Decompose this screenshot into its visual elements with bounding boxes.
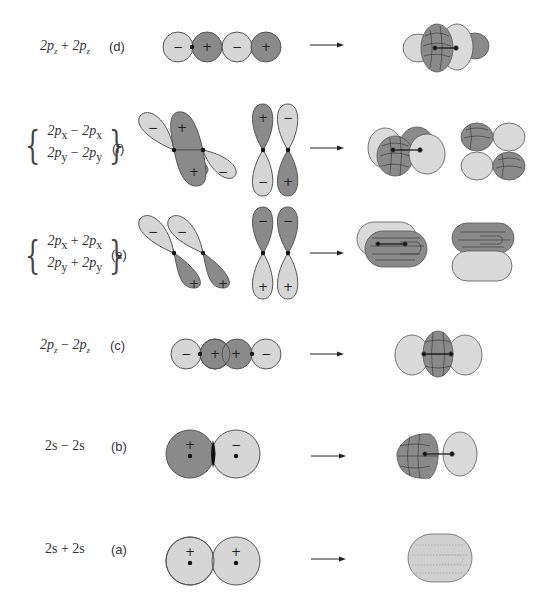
arrow-icon (311, 454, 346, 459)
svg-text:−: − (218, 165, 228, 179)
row-e: { 2px + 2px 2py + 2py } (e) − − + + (0, 200, 545, 310)
p-orbital-overlap-diagram: − − + + − − + + (0, 200, 545, 310)
sigma-bonding-mo-surface (408, 534, 472, 582)
svg-text:+: + (231, 347, 241, 361)
svg-text:+: + (185, 545, 195, 559)
p-orbital-overlap-diagram: − + − + (0, 0, 545, 90)
svg-text:−: − (258, 214, 268, 228)
row-b: 2s − 2s (b) + − (0, 410, 545, 515)
s-orbital-overlap-diagram: + − (0, 410, 545, 515)
svg-text:−: − (261, 347, 271, 361)
p-orbital-overlap-diagram: − + + − + − − + (0, 90, 545, 200)
row-c: 2pz − 2pz (c) − + + − (0, 310, 545, 410)
sigma-bonding-mo-surface (395, 331, 482, 377)
sign-plus: + (202, 40, 212, 54)
svg-text:+: + (283, 280, 293, 294)
arrow-icon (310, 251, 344, 256)
row-d: 2pz + 2pz (d) − + − + (0, 0, 545, 90)
svg-text:−: − (231, 438, 241, 452)
sign-plus: + (261, 40, 271, 54)
svg-text:+: + (177, 121, 187, 135)
pi-bonding-mo-surface (357, 222, 427, 267)
svg-text:+: + (258, 111, 268, 125)
svg-text:+: + (283, 175, 293, 189)
svg-text:+: + (258, 280, 268, 294)
sigma-antibonding-mo-surface (403, 24, 489, 72)
p-orbital-overlap-diagram: − + + − (0, 310, 545, 410)
svg-text:−: − (148, 121, 158, 135)
row-a: 2s + 2s (a) + + (0, 515, 545, 611)
svg-text:+: + (231, 545, 241, 559)
svg-text:−: − (148, 225, 158, 239)
svg-text:+: + (189, 277, 199, 291)
svg-text:+: + (218, 277, 228, 291)
arrow-icon (310, 43, 344, 48)
svg-text:−: − (283, 214, 293, 228)
svg-text:−: − (177, 225, 187, 239)
svg-text:+: + (185, 438, 195, 452)
arrow-icon (310, 146, 344, 151)
svg-text:+: + (210, 347, 220, 361)
arrow-icon (310, 352, 344, 357)
svg-text:−: − (283, 111, 293, 125)
pi-bonding-mo-surface-alt (452, 223, 514, 281)
svg-text:−: − (181, 347, 191, 361)
sign-minus: − (173, 40, 183, 54)
s-orbital-overlap-diagram: + + (0, 515, 545, 611)
sign-minus: − (232, 40, 242, 54)
sigma-antibonding-mo-surface (397, 432, 477, 478)
svg-text:+: + (189, 165, 199, 179)
row-f: { 2px − 2px 2py − 2py } (f) − + + − (0, 90, 545, 200)
pi-antibonding-mo-surface (368, 127, 445, 176)
arrow-icon (311, 557, 346, 562)
svg-text:−: − (258, 175, 268, 189)
pi-antibonding-mo-surface-alt (461, 123, 525, 180)
